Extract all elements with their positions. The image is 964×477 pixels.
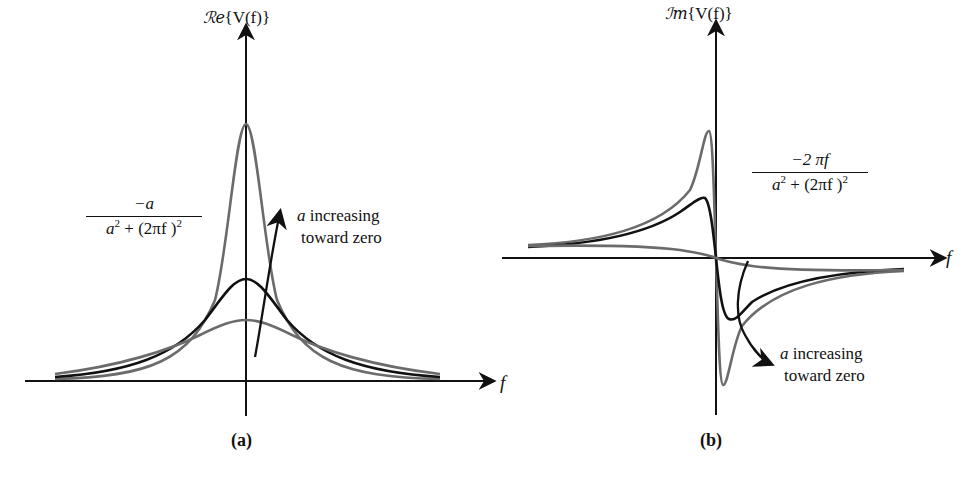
panel-a-formula-numerator: −a — [86, 194, 202, 214]
panel-a-curve-narrow — [55, 124, 440, 379]
panel-b — [502, 22, 944, 415]
panel-b-formula-numerator: −2 πf — [752, 150, 868, 170]
panel-a-y-axis-label: ℛe{V(f)} — [203, 8, 270, 28]
fraction-bar — [86, 216, 202, 217]
panel-b-formula: −2 πf a2 + (2πf )2 — [752, 150, 868, 195]
panel-b-caption: (b) — [700, 430, 722, 451]
panel-b-x-axis-label: f — [946, 248, 951, 268]
panel-a-annotation: a increasing toward zero — [297, 205, 382, 249]
fraction-bar — [752, 172, 868, 173]
panel-b-formula-denominator: a2 + (2πf )2 — [752, 175, 868, 195]
panel-a-curve-medium — [55, 279, 440, 377]
panel-b-y-axis-label: ℐm{V(f)} — [665, 4, 733, 24]
panel-a-x-axis-label: f — [500, 373, 505, 393]
real-part-symbol: ℛe — [203, 8, 224, 27]
panel-a-formula: −a a2 + (2πf )2 — [86, 194, 202, 239]
imag-part-symbol: ℐm — [665, 4, 687, 23]
panel-a-curve-wide — [55, 320, 440, 374]
panel-b-annotation: a increasing toward zero — [780, 343, 865, 387]
panel-a-caption: (a) — [231, 430, 252, 451]
panel-a-formula-denominator: a2 + (2πf )2 — [86, 219, 202, 239]
